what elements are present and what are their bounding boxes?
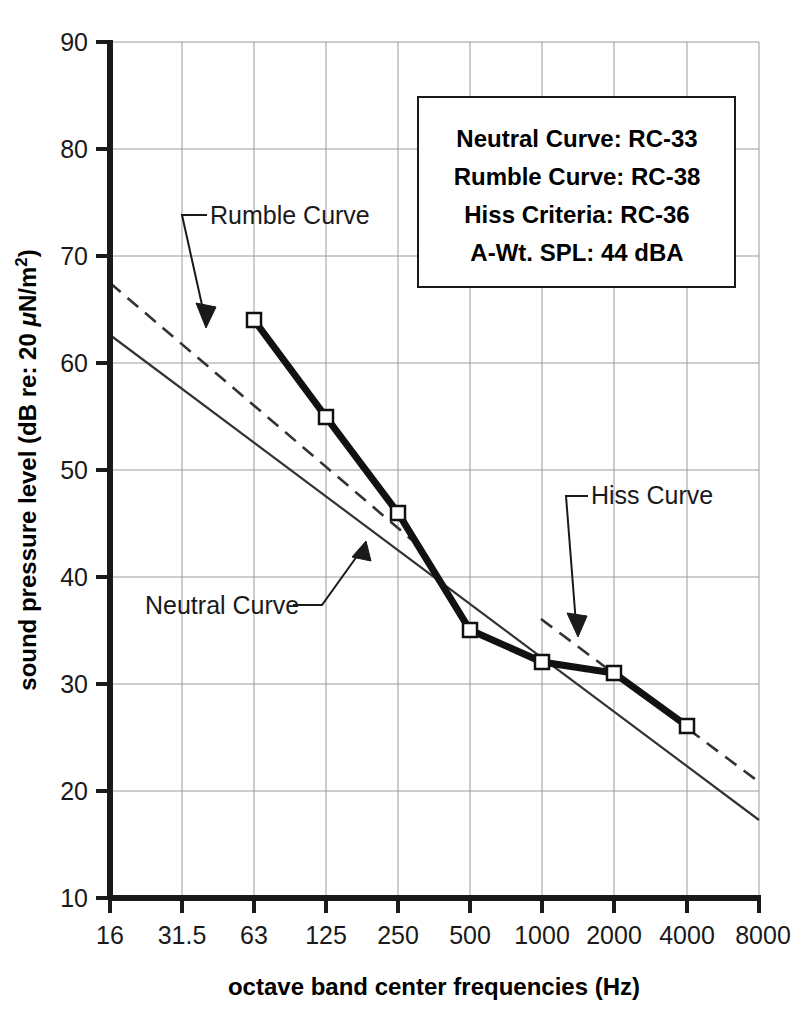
data-point-1000 [535,655,549,669]
annotation-rumble-curve-label: Rumble Curve [210,201,370,229]
x-axis-tick-labels: 16 31.5 63 125 250 500 1000 2000 4000 80… [96,921,791,949]
legend-line-rumble-curve: Rumble Curve: RC-38 [454,163,701,190]
y-axis-title: sound pressure level (dB re: 20 μN/m2) [12,249,41,690]
y-tick-label-60: 60 [60,349,88,377]
x-tick-label-4000: 4000 [659,921,715,949]
y-tick-label-50: 50 [60,456,88,484]
y-axis-title-middle: N/m [14,267,41,312]
x-tick-label-250: 250 [377,921,419,949]
y-axis-title-text: sound pressure level (dB re: 20 μN/m2) [12,249,41,690]
y-tick-label-10: 10 [60,884,88,912]
x-tick-label-63: 63 [240,921,268,949]
chart-canvas: 90 80 70 60 50 40 30 20 10 16 31.5 63 12… [0,0,806,1012]
data-point-125 [319,410,333,424]
x-tick-label-500: 500 [449,921,491,949]
x-tick-label-16: 16 [96,921,124,949]
y-tick-label-70: 70 [60,242,88,270]
legend-line-a-weighted-spl: A-Wt. SPL: 44 dBA [470,239,683,266]
legend-line-neutral-curve: Neutral Curve: RC-33 [456,125,697,152]
x-tick-label-2000: 2000 [586,921,642,949]
y-tick-label-90: 90 [60,28,88,56]
x-tick-label-31_5: 31.5 [158,921,207,949]
rc-curve-chart: 90 80 70 60 50 40 30 20 10 16 31.5 63 12… [0,0,806,1012]
annotation-neutral-curve-label: Neutral Curve [145,591,299,619]
x-tick-label-8000: 8000 [735,921,791,949]
legend-line-hiss-criteria: Hiss Criteria: RC-36 [464,201,689,228]
data-point-63 [247,313,261,327]
data-point-500 [463,623,477,637]
x-tick-label-125: 125 [305,921,347,949]
x-axis-title: octave band center frequencies (Hz) [228,973,640,1000]
data-point-250 [391,506,405,520]
summary-legend-box: Neutral Curve: RC-33 Rumble Curve: RC-38… [418,97,735,287]
annotation-hiss-curve-label: Hiss Curve [591,481,713,509]
y-tick-label-40: 40 [60,563,88,591]
y-tick-label-80: 80 [60,135,88,163]
y-tick-label-30: 30 [60,670,88,698]
x-tick-label-1000: 1000 [514,921,570,949]
data-point-4000 [680,719,694,733]
y-tick-label-20: 20 [60,777,88,805]
y-axis-title-after: ) [14,249,41,257]
y-axis-title-before: sound pressure level (dB re: 20 [14,327,41,691]
y-axis-title-superscript: 2 [12,257,31,266]
data-point-2000 [607,666,621,680]
y-axis-tick-labels: 90 80 70 60 50 40 30 20 10 [60,28,88,912]
mu-symbol: μ [14,312,41,328]
